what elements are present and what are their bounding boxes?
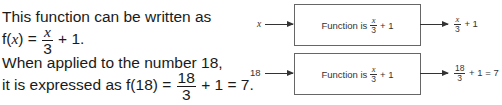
output-2: 183 + 1 = 7 [453,64,499,82]
denominator: 3 [454,74,465,83]
plus-one: + 1. [54,30,85,47]
fraction-18-over-3: 183 [177,70,196,102]
result-suffix: + 1 = 7. [197,76,254,93]
function-box-2: Function is x3 + 1 [294,53,421,95]
denominator: 3 [370,26,377,35]
box-label: Function is [321,69,367,80]
arrow-in-1 [265,24,293,25]
output-suffix: + 1 = 7 [469,67,499,78]
box-fraction: x3 [370,65,377,83]
box-fraction: x3 [370,16,377,34]
arrow-in-2 [265,73,293,74]
f18-prefix: it is expressed as f(18) = [2,76,176,93]
function-box-1: Function is x3 + 1 [294,4,421,46]
input-18: 18 [250,67,261,78]
numerator: x [42,24,53,41]
line-4-formula: it is expressed as f(18) = 183 + 1 = 7. [2,70,254,102]
output-1: x3 + 1 [453,15,478,33]
arrow-out-2 [420,73,448,74]
line-2-formula: f(x) = x3 + 1. [2,24,84,56]
arrow-out-1 [420,24,448,25]
box-label: Function is [321,20,367,31]
output-fraction: x3 [454,15,461,33]
input-x: x [257,19,261,29]
equals: ) = [18,30,41,47]
denominator: 3 [454,25,461,34]
denominator: 3 [177,87,196,103]
box-plus-one: + 1 [380,20,393,31]
output-suffix: + 1 [464,18,477,29]
fraction-x-over-3: x3 [42,24,53,56]
denominator: 3 [370,75,377,84]
numerator: 18 [177,70,196,87]
output-fraction: 183 [454,64,465,82]
box-plus-one: + 1 [380,69,393,80]
